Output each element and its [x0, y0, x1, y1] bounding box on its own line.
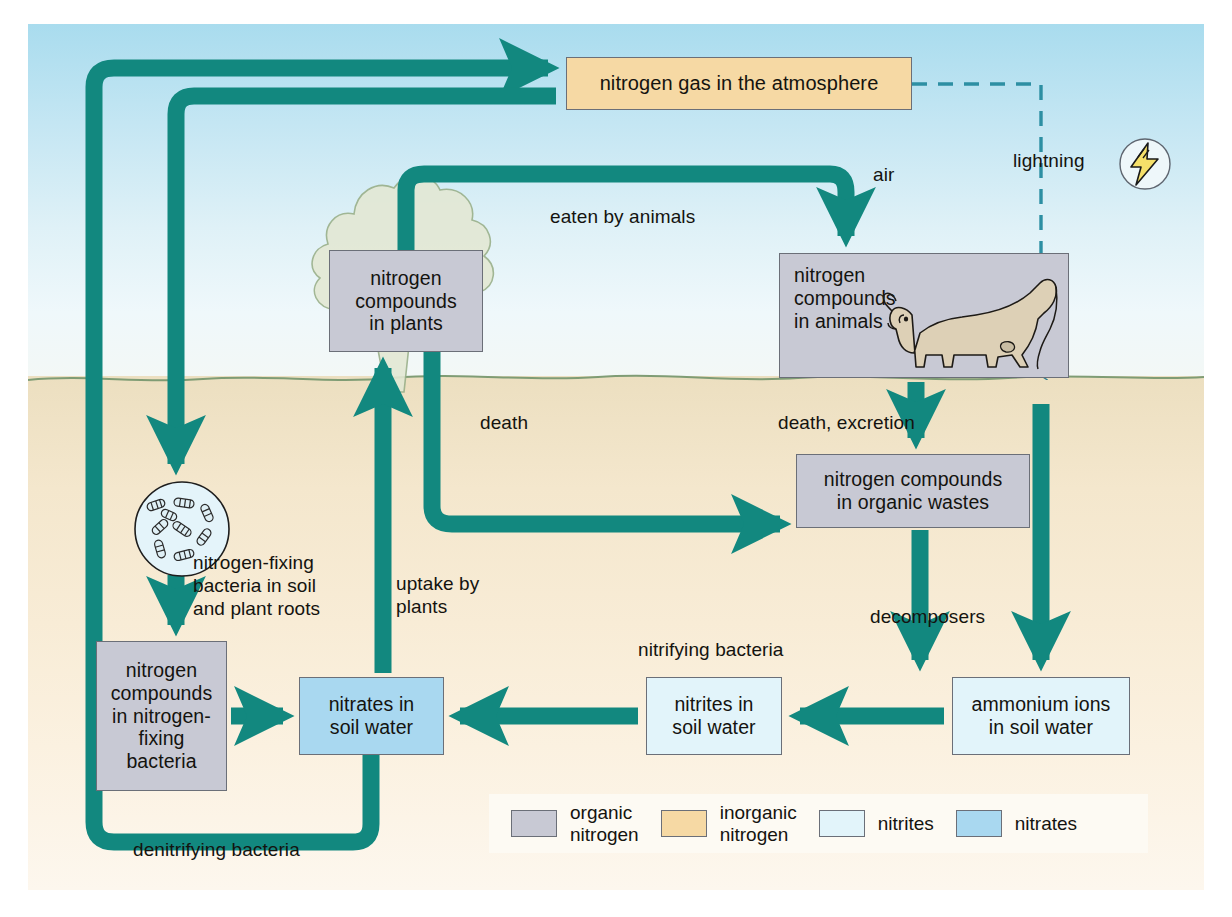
legend-swatch-nitrites: [819, 810, 865, 837]
label-nitrogen-fixing-bacteria-note: nitrogen-fixing bacteria in soil and pla…: [193, 552, 320, 620]
label-eaten-by-animals: eaten by animals: [550, 206, 695, 229]
box-label: nitrates in soil water: [329, 693, 415, 738]
box-label: ammonium ions in soil water: [972, 693, 1111, 738]
legend-swatch-organic-nitrogen: [511, 810, 557, 837]
label-decomposers: decomposers: [870, 606, 985, 629]
label-nitrifying-bacteria: nitrifying bacteria: [638, 639, 784, 662]
legend-item-inorganic-nitrogen: inorganic nitrogen: [661, 802, 797, 846]
box-nitrogen-compounds-in-animals[interactable]: nitrogen compounds in animals: [779, 253, 1069, 378]
box-nitrites-in-soil-water[interactable]: nitrites in soil water: [646, 677, 782, 755]
legend-label: inorganic nitrogen: [720, 802, 797, 846]
cow-icon: [880, 271, 1062, 375]
label-air: air: [873, 164, 894, 187]
box-label: nitrites in soil water: [672, 693, 755, 738]
box-nitrogen-compounds-in-plants[interactable]: nitrogen compounds in plants: [329, 250, 483, 352]
legend-label: organic nitrogen: [570, 802, 639, 846]
legend-label: nitrites: [878, 813, 934, 835]
lightning-icon: [1118, 137, 1172, 191]
legend-item-nitrates: nitrates: [956, 810, 1077, 837]
legend-swatch-inorganic-nitrogen: [661, 810, 707, 837]
label-denitrifying-bacteria: denitrifying bacteria: [133, 839, 300, 862]
legend-swatch-nitrates: [956, 810, 1002, 837]
box-label: nitrogen compounds in organic wastes: [824, 468, 1003, 513]
scene: nitrogen gas in the atmosphere nitrogen …: [28, 24, 1204, 890]
legend-item-organic-nitrogen: organic nitrogen: [511, 802, 639, 846]
box-nitrates-in-soil-water[interactable]: nitrates in soil water: [299, 677, 444, 755]
box-label: nitrogen compounds in nitrogen- fixing b…: [111, 659, 213, 772]
nitrogen-cycle-diagram: nitrogen gas in the atmosphere nitrogen …: [0, 0, 1232, 917]
box-nitrogen-compounds-fixing-bacteria[interactable]: nitrogen compounds in nitrogen- fixing b…: [96, 641, 227, 791]
label-lightning: lightning: [1013, 150, 1085, 173]
label-death: death: [480, 412, 528, 435]
label-death-excretion: death, excretion: [778, 412, 915, 435]
box-ammonium-ions-in-soil-water[interactable]: ammonium ions in soil water: [952, 677, 1130, 755]
legend-item-nitrites: nitrites: [819, 810, 934, 837]
label-uptake-by-plants: uptake by plants: [396, 573, 479, 619]
box-nitrogen-gas-atmosphere[interactable]: nitrogen gas in the atmosphere: [566, 57, 912, 110]
legend-label: nitrates: [1015, 813, 1077, 835]
legend: organic nitrogen inorganic nitrogen nitr…: [489, 794, 1148, 853]
box-nitrogen-compounds-organic-wastes[interactable]: nitrogen compounds in organic wastes: [796, 454, 1030, 528]
box-label: nitrogen compounds in plants: [355, 267, 457, 335]
box-label: nitrogen gas in the atmosphere: [600, 72, 879, 95]
